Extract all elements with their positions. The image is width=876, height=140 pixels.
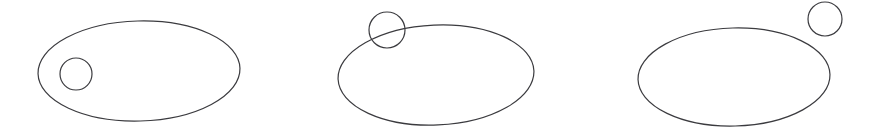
ellipse-outline-panel-2 [336, 21, 536, 129]
diagram-canvas [0, 0, 876, 140]
circle-outline-panel-3 [808, 2, 842, 36]
ellipse-outline-panel-1 [37, 18, 242, 123]
panel-outside [637, 2, 842, 128]
panel-intersecting [336, 12, 536, 129]
circle-outline-panel-1 [60, 58, 92, 90]
panel-inside [37, 18, 242, 123]
diagram-svg [0, 0, 876, 140]
ellipse-outline-panel-3 [637, 26, 831, 129]
